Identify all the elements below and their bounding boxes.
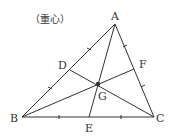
label-b: B [10,112,18,125]
label-d: D [58,59,67,72]
median-ae [89,24,115,117]
triangle-abc [22,24,154,117]
label-e: E [85,122,93,135]
label-a: A [111,10,119,23]
label-c: C [156,112,164,125]
centroid-point [96,82,100,86]
median-bf [22,69,134,117]
label-f: F [139,58,147,71]
median-cd [70,70,154,117]
label-g: G [98,90,107,103]
